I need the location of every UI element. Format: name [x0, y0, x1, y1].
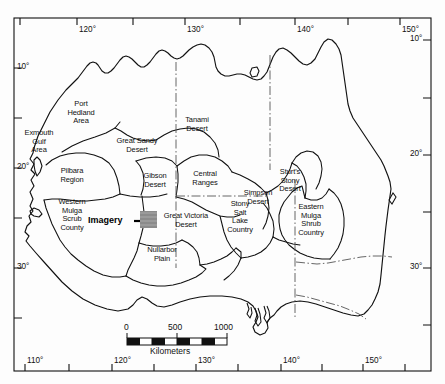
region-label-western-mulga-scrub-county: WesternMulgaScrubCounty: [48, 198, 96, 232]
axis-label-right-2: 30°: [410, 262, 422, 271]
scale-tick-label-1: 500: [168, 322, 182, 332]
south-coast-gulfs: [247, 303, 270, 326]
region-label-gibson-desert: GibsonDesert: [131, 172, 179, 189]
scale-bar-graphic: [127, 333, 227, 345]
axis-label-right-0: 10°: [410, 34, 422, 43]
axis-label-bottom-4: 150°: [365, 356, 382, 365]
scale-tick-label-2: 1000: [214, 322, 233, 332]
region-label-great-victoria-desert: Great VictoriaDesert: [150, 212, 222, 229]
axis-label-bottom-2: 130°: [198, 356, 215, 365]
region-label-pilbara-region: PilbaraRegion: [48, 167, 96, 184]
axis-label-top-2: 140°: [297, 25, 314, 34]
scale-unit-label: Kilometers: [150, 346, 190, 356]
axis-label-left-1: 20°: [17, 162, 29, 171]
axis-label-top-0: 120°: [79, 25, 96, 34]
region-label-stony-salt-lake-country: StonySaltLakeCountry: [216, 200, 264, 234]
region-label-port-hedland-area: PortHedlandArea: [57, 100, 105, 126]
map-frame: [14, 18, 431, 371]
axis-label-top-3: 150°: [402, 25, 419, 34]
groote-eylandt-island: [250, 67, 259, 77]
axis-ticks: [14, 18, 431, 371]
region-label-tanami-desert: TanamiDesert: [173, 116, 221, 133]
region-label-exmouth-gulf-area: ExmouthGulfArea: [15, 129, 63, 155]
region-label-eastern-mulga-shrub-country: EasternMulgaShrubCountry: [287, 203, 335, 237]
axis-label-left-2: 30°: [17, 262, 29, 271]
axis-label-bottom-3: 140°: [283, 356, 300, 365]
scale-tick-label-0: 0: [124, 322, 129, 332]
axis-label-right-1: 20°: [410, 149, 422, 158]
map-figure: Imagery ExmouthGulfArea PortHedlandArea …: [0, 0, 445, 384]
axis-label-bottom-0: 110°: [27, 356, 43, 365]
axis-label-bottom-1: 120°: [114, 356, 131, 365]
region-label-nullarbor-plain: NullarborPlain: [138, 246, 186, 263]
region-label-central-ranges: CentralRanges: [181, 170, 229, 187]
axis-label-top-1: 130°: [187, 25, 204, 34]
region-label-great-sandy-desert: Great SandyDesert: [103, 137, 171, 154]
axis-label-left-0: 10°: [17, 62, 29, 71]
